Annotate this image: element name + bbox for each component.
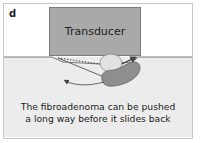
figure-caption: The fibroadenoma can be pushed a long wa… [4, 101, 192, 125]
caption-line-2: a long way before it slides back [4, 113, 192, 125]
slide-back-arrow-icon [66, 81, 104, 85]
skin-line [4, 57, 192, 64]
displacement-line [58, 58, 104, 77]
caption-line-1: The fibroadenoma can be pushed [4, 101, 192, 113]
